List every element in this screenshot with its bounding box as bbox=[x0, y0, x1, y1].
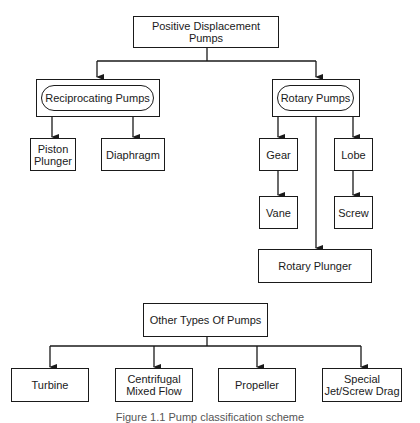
node-label: Rotary Plunger bbox=[278, 260, 351, 272]
node-turbine: Turbine bbox=[11, 368, 89, 402]
node-centrifugal-mixed-flow: Centrifugal Mixed Flow bbox=[115, 368, 193, 402]
node-rotary-plunger: Rotary Plunger bbox=[258, 249, 372, 283]
node-label: Special Jet/Screw Drag bbox=[324, 373, 399, 397]
node-label: Rotary Pumps bbox=[281, 92, 351, 104]
node-propeller: Propeller bbox=[218, 368, 296, 402]
node-gear: Gear bbox=[259, 138, 298, 171]
node-label: Screw bbox=[338, 207, 369, 219]
node-label: Gear bbox=[266, 149, 290, 161]
node-lobe: Lobe bbox=[334, 138, 373, 171]
node-piston-plunger: Piston Plunger bbox=[30, 138, 76, 171]
node-reciprocating-pumps: Reciprocating Pumps bbox=[36, 79, 160, 117]
node-label: Diaphragm bbox=[106, 149, 160, 161]
reciprocating-pill: Reciprocating Pumps bbox=[41, 85, 154, 111]
node-label: Other Types Of Pumps bbox=[150, 314, 262, 326]
node-label: Piston Plunger bbox=[34, 143, 72, 167]
node-label: Centrifugal Mixed Flow bbox=[126, 373, 182, 397]
node-positive-displacement-pumps: Positive Displacement Pumps bbox=[133, 16, 279, 48]
node-label: Vane bbox=[266, 207, 291, 219]
node-vane: Vane bbox=[259, 196, 298, 229]
figure-caption: Figure 1.1 Pump classification scheme bbox=[0, 411, 420, 423]
node-diaphragm: Diaphragm bbox=[101, 138, 165, 171]
node-label: Propeller bbox=[235, 379, 279, 391]
node-label: Positive Displacement Pumps bbox=[134, 20, 278, 44]
node-other-types-of-pumps: Other Types Of Pumps bbox=[143, 303, 268, 337]
node-label: Lobe bbox=[341, 149, 365, 161]
node-rotary-pumps: Rotary Pumps bbox=[272, 79, 360, 117]
node-special-jet-screw-drag: Special Jet/Screw Drag bbox=[322, 368, 402, 402]
node-label: Reciprocating Pumps bbox=[45, 92, 150, 104]
node-screw: Screw bbox=[334, 196, 373, 229]
rotary-pill: Rotary Pumps bbox=[277, 85, 354, 111]
node-label: Turbine bbox=[32, 379, 69, 391]
